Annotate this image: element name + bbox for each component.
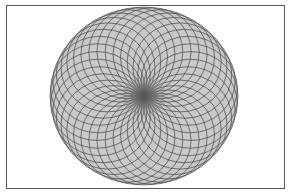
figure-canvas	[0, 0, 290, 193]
center-shade	[122, 75, 166, 117]
spirograph-figure	[0, 0, 290, 193]
